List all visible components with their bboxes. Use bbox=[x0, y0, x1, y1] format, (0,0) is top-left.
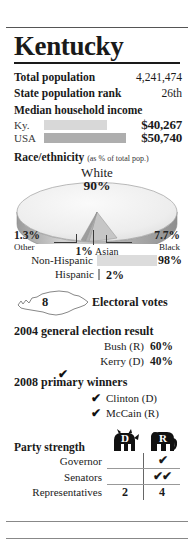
income-chart: Ky. $40,267 USA $50,740 bbox=[10, 119, 184, 144]
stat-label: Total population bbox=[14, 69, 95, 85]
bottom-divider-1 bbox=[6, 521, 188, 522]
candidate-name: Kerry (D) bbox=[14, 354, 150, 369]
race-heading-sub: (as % of total pop.) bbox=[87, 154, 149, 163]
kentucky-outline-icon bbox=[16, 288, 90, 318]
income-label: USA bbox=[14, 132, 44, 144]
leader-line-other bbox=[54, 242, 76, 243]
leader-line-black bbox=[106, 242, 132, 243]
income-value: $50,740 bbox=[130, 130, 184, 146]
elephant-icon: R bbox=[148, 429, 178, 453]
card-content: Kentucky Total population 4,241,474 Stat… bbox=[0, 28, 194, 500]
table-row: Representatives 2 4 bbox=[14, 485, 180, 501]
candidate-row-kerry: Kerry (D) 40% bbox=[10, 354, 184, 369]
primary-heading: 2008 primary winners bbox=[10, 374, 184, 390]
party-row-label: Senators bbox=[14, 469, 107, 485]
party-rep-cell: ✔✔ bbox=[144, 469, 181, 485]
stat-label: State population rank bbox=[14, 85, 121, 101]
elephant-letter: R bbox=[148, 432, 178, 444]
race-heading: Race/ethnicity (as % of total pop.) bbox=[10, 145, 184, 163]
electoral-votes-label: Electoral votes bbox=[90, 295, 168, 310]
income-bar-track bbox=[44, 133, 130, 143]
hispanic-bar-fill bbox=[97, 255, 157, 266]
check-icon: ✔ bbox=[89, 391, 103, 407]
stat-total-population: Total population 4,241,474 bbox=[10, 69, 184, 85]
leader-line-other-v bbox=[76, 234, 77, 243]
pie-asian-pct: 1% bbox=[76, 245, 93, 257]
primary-row-clinton: ✔ Clinton (D) bbox=[10, 391, 184, 407]
electoral-votes-row: 8 Electoral votes bbox=[10, 288, 184, 318]
party-dem-cell: 2 bbox=[107, 485, 144, 501]
donkey-letter: D bbox=[110, 432, 140, 444]
party-icons: D R bbox=[110, 429, 178, 453]
primary-row-mccain: ✔ McCain (R) bbox=[10, 406, 184, 422]
check-icon-bush: ✔ bbox=[58, 367, 68, 382]
party-rep-cell: 4 bbox=[144, 485, 181, 501]
candidate-pct: 60% bbox=[150, 339, 184, 354]
hispanic-row-hisp: Hispanic 2% bbox=[12, 268, 184, 281]
general-election-heading: 2004 general election result bbox=[10, 323, 184, 339]
table-row: Governor ✔ bbox=[14, 453, 180, 469]
hispanic-inline-value: 2% bbox=[106, 268, 124, 283]
income-label: Ky. bbox=[14, 119, 44, 131]
hispanic-bar-track: 2% bbox=[98, 269, 160, 280]
leader-line-asian-v bbox=[93, 230, 94, 245]
stat-value: 26th bbox=[162, 85, 182, 101]
race-heading-main: Race/ethnicity bbox=[14, 151, 84, 163]
party-row-label: Governor bbox=[14, 453, 107, 469]
title-underline bbox=[14, 62, 180, 64]
pie-white-name: White bbox=[10, 166, 184, 180]
stat-value: 4,241,474 bbox=[136, 69, 182, 85]
income-bar-fill bbox=[44, 133, 126, 143]
pie-other-pct: 1.3% bbox=[14, 229, 40, 242]
pie-label-white: White 90% bbox=[10, 166, 184, 194]
page-title: Kentucky bbox=[10, 28, 184, 61]
pie-black-pct: 7.7% bbox=[154, 229, 180, 242]
leader-line-black-v bbox=[106, 235, 107, 243]
candidate-name: Bush (R) bbox=[14, 339, 150, 354]
hispanic-chart: Non-Hispanic 98% Hispanic 2% bbox=[10, 254, 184, 281]
hispanic-label: Hispanic bbox=[12, 268, 98, 280]
primary-name: McCain (R) bbox=[103, 406, 184, 421]
party-dem-cell bbox=[107, 453, 144, 469]
bottom-divider-2 bbox=[6, 538, 188, 539]
race-pie-chart: White 90% bbox=[10, 164, 184, 250]
party-strength-section: D R Party stre bbox=[10, 429, 184, 500]
party-row-label: Representatives bbox=[14, 485, 107, 501]
income-row-usa: USA $50,740 bbox=[14, 132, 184, 144]
income-heading: Median household income bbox=[10, 102, 184, 118]
table-row: Senators ✔✔ bbox=[14, 469, 180, 485]
electoral-votes-count: 8 bbox=[42, 295, 48, 310]
stat-population-rank: State population rank 26th bbox=[10, 85, 184, 101]
income-bar-track bbox=[44, 120, 130, 130]
state-profile-card: Kentucky Total population 4,241,474 Stat… bbox=[0, 0, 194, 550]
candidate-pct: 40% bbox=[150, 354, 184, 369]
party-dem-cell bbox=[107, 469, 144, 485]
pie-white-pct: 90% bbox=[10, 179, 184, 194]
donkey-icon: D bbox=[110, 429, 140, 453]
candidate-row-bush: Bush (R) 60% bbox=[10, 339, 184, 354]
kentucky-map-icon: 8 bbox=[16, 288, 90, 318]
income-bar-fill bbox=[44, 120, 107, 130]
party-rep-cell: ✔ bbox=[144, 453, 181, 469]
primary-name: Clinton (D) bbox=[103, 391, 184, 406]
check-icon: ✔ bbox=[89, 406, 103, 422]
party-strength-table: Governor ✔ Senators ✔✔ Representatives 2… bbox=[14, 453, 180, 500]
hispanic-bar-fill bbox=[98, 269, 100, 280]
pie-callouts: 1.3% Other 7.7% Black 1% Asian bbox=[10, 224, 184, 258]
hispanic-bar-track bbox=[97, 255, 158, 266]
